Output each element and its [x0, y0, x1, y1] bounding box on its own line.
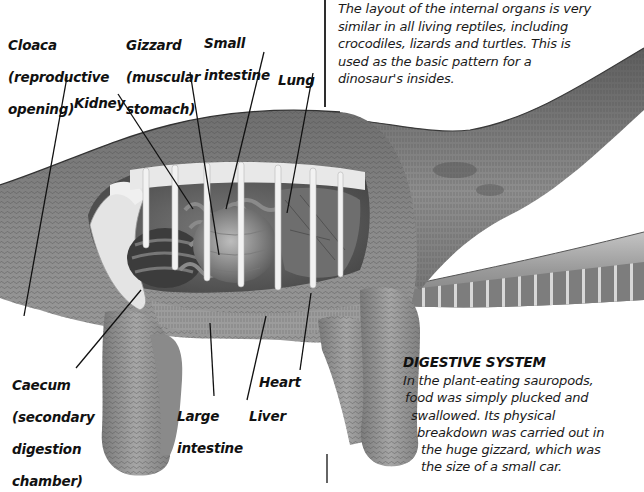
caption-line: breakdown was carried out in: [403, 424, 643, 441]
label-gizzard: Gizzard (muscular stomach): [126, 21, 200, 133]
label-line: (secondary: [12, 409, 94, 425]
caption-line: food was simply plucked and: [403, 389, 643, 406]
digestive-system-title: DIGESTIVE SYSTEM: [403, 354, 546, 370]
label-line: intestine: [204, 67, 270, 83]
label-line: Gizzard: [126, 37, 200, 53]
label-line: Liver: [249, 408, 286, 424]
caption-line: the huge gizzard, which was: [403, 441, 643, 458]
label-line: stomach): [126, 101, 200, 117]
label-line: Caecum: [12, 377, 94, 393]
label-line: digestion: [12, 441, 94, 457]
label-heart: Heart: [259, 358, 301, 406]
label-small-intestine: Small intestine: [204, 19, 270, 99]
label-line: Small: [204, 35, 270, 51]
caption-line: the size of a small car.: [403, 458, 643, 475]
label-line: Kidney: [74, 95, 125, 111]
caption-line: swallowed. Its physical: [403, 407, 643, 424]
intro-line: dinosaur's insides.: [338, 70, 638, 88]
label-large-intestine: Large intestine: [177, 392, 243, 472]
label-line: Cloaca: [8, 37, 109, 53]
label-lung: Lung: [278, 56, 315, 104]
label-line: (muscular: [126, 69, 200, 85]
intro-line: crocodiles, lizards and turtles. This is: [338, 35, 638, 53]
label-line: intestine: [177, 440, 243, 456]
intro-line: used as the basic pattern for a: [338, 53, 638, 71]
intro-paragraph: The layout of the internal organs is ver…: [338, 0, 638, 88]
digestive-system-caption: In the plant-eating sauropods, food was …: [403, 372, 643, 476]
label-caecum: Caecum (secondary digestion chamber): [12, 361, 94, 492]
label-line: Large: [177, 408, 243, 424]
label-kidney: Kidney: [74, 79, 125, 127]
label-line: Lung: [278, 72, 315, 88]
label-line: Heart: [259, 374, 301, 390]
intro-line: The layout of the internal organs is ver…: [338, 0, 638, 18]
caption-line: In the plant-eating sauropods,: [403, 372, 643, 389]
intro-line: similar in all living reptiles, includin…: [338, 18, 638, 36]
label-line: chamber): [12, 473, 94, 489]
